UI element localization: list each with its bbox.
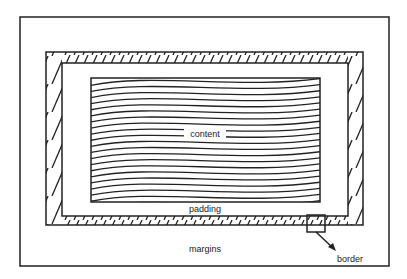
padding-label: padding	[189, 204, 221, 214]
margins-label: margins	[189, 244, 222, 254]
box-model-diagram: content padding margins border	[0, 0, 407, 279]
border-label: border	[337, 254, 363, 264]
content-label: content	[190, 129, 220, 139]
